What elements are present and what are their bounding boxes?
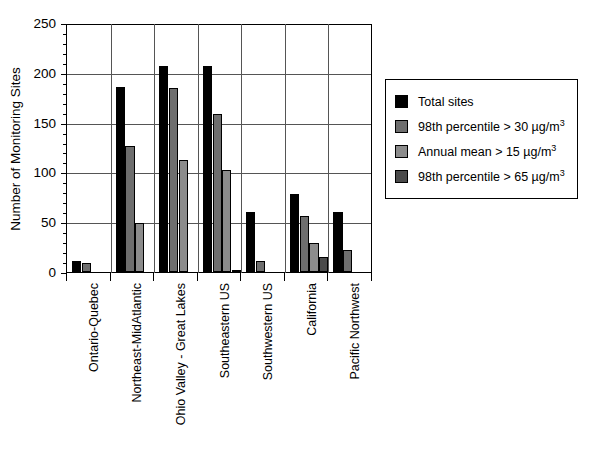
y-tick-label-50: 50 <box>18 215 56 230</box>
bar <box>343 250 352 272</box>
y-axis-title-container: Number of Monitoring Sites <box>4 24 26 273</box>
x-tick-2 <box>153 273 154 281</box>
bar <box>290 194 299 272</box>
x-axis-label-1: Ontario-Quebec <box>86 283 102 401</box>
x-tick-1 <box>110 273 111 281</box>
bar <box>222 170 231 272</box>
x-axis-label-text: California <box>305 283 319 336</box>
x-tick-0 <box>66 273 67 281</box>
bar <box>159 66 168 272</box>
x-axis-label-7: Pacific Northwest <box>347 283 363 401</box>
legend-swatch-icon <box>395 145 408 158</box>
x-tick-6 <box>327 273 328 281</box>
y-tick-label-100: 100 <box>18 165 56 180</box>
bar <box>300 216 309 272</box>
bar <box>333 212 342 272</box>
bar-group <box>241 23 285 272</box>
x-axis-label-text: Southeastern US <box>218 283 232 378</box>
plot-area <box>66 24 371 273</box>
x-axis-label-4: Southeastern US <box>217 283 233 401</box>
x-axis-label-text: Ohio Valley - Great Lakes <box>174 283 188 425</box>
legend-swatch-icon <box>395 170 408 183</box>
bar <box>116 87 125 272</box>
bar <box>82 263 91 272</box>
x-axis-label-6: California <box>304 283 320 401</box>
bar <box>256 261 265 272</box>
bar <box>179 160 188 272</box>
bar <box>72 261 81 272</box>
bar <box>203 66 212 272</box>
legend-swatch-icon <box>395 95 408 108</box>
legend-label: 98th percentile > 65 µg/m3 <box>418 168 565 184</box>
legend-item: 98th percentile > 30 µg/m3 <box>395 114 569 139</box>
bar-group <box>67 23 111 272</box>
bar-group <box>154 23 198 272</box>
legend-label: 98th percentile > 30 µg/m3 <box>418 118 565 134</box>
bar-group <box>285 23 329 272</box>
x-tick-7 <box>371 273 372 281</box>
chart-figure: Number of Monitoring Sites 0501001502002… <box>0 0 602 449</box>
y-tick-label-0: 0 <box>18 265 56 280</box>
legend: Total sites98th percentile > 30 µg/m3Ann… <box>385 79 578 199</box>
x-tick-3 <box>197 273 198 281</box>
x-tick-5 <box>284 273 285 281</box>
legend-swatch-icon <box>395 120 408 133</box>
y-tick-label-200: 200 <box>18 66 56 81</box>
legend-item: Total sites <box>395 89 569 114</box>
legend-item: Annual mean > 15 µg/m3 <box>395 139 569 164</box>
bar-group <box>111 23 155 272</box>
x-axis-label-2: Northeast-MidAtlantic <box>129 283 145 401</box>
figure-caption <box>4 437 598 449</box>
y-tick-label-150: 150 <box>18 116 56 131</box>
y-axis-title: Number of Monitoring Sites <box>8 67 23 231</box>
bar <box>213 114 222 272</box>
x-tick-4 <box>240 273 241 281</box>
bar <box>135 223 144 272</box>
bar <box>309 243 318 272</box>
bar <box>125 146 134 272</box>
x-axis-label-text: Southwestern US <box>261 283 275 380</box>
x-axis-label-3: Ohio Valley - Great Lakes <box>173 283 189 401</box>
legend-label: Total sites <box>418 95 474 109</box>
x-axis-label-text: Pacific Northwest <box>348 283 362 380</box>
legend-label: Annual mean > 15 µg/m3 <box>418 143 556 159</box>
y-tick-label-250: 250 <box>18 16 56 31</box>
legend-item: 98th percentile > 65 µg/m3 <box>395 164 569 189</box>
bar <box>246 212 255 272</box>
bar-group <box>328 23 372 272</box>
bar <box>232 270 241 272</box>
bar <box>169 88 178 272</box>
x-axis-label-text: Ontario-Quebec <box>87 283 101 372</box>
bar-group <box>198 23 242 272</box>
bar <box>319 257 328 272</box>
x-axis-label-5: Southwestern US <box>260 283 276 401</box>
x-axis-label-text: Northeast-MidAtlantic <box>130 283 144 403</box>
